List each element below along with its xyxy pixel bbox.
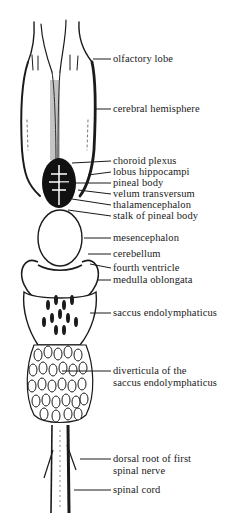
label-saccus-endolymphaticus: saccus endolymphaticus (113, 307, 217, 318)
label-lobus-hippocampi: lobus hippocampi (113, 166, 190, 177)
label-dorsal-root: dorsal root of first spinal nerve (113, 453, 191, 477)
label-diverticula-line2: saccus endolymphaticus (113, 377, 217, 389)
label-dorsal-root-line2: spinal nerve (113, 465, 191, 477)
label-fourth-ventricle: fourth ventricle (113, 262, 180, 273)
label-mesencephalon: mesencephalon (113, 232, 179, 243)
label-diverticula-line1: diverticula of the (113, 365, 217, 377)
label-spinal-cord: spinal cord (113, 484, 160, 495)
left-olfactory-tip-outer (28, 22, 34, 62)
label-diverticula: diverticula of the saccus endolymphaticu… (113, 365, 217, 389)
label-choroid-plexus: choroid plexus (113, 155, 177, 166)
label-dorsal-root-line1: dorsal root of first (113, 453, 191, 465)
label-cerebellum: cerebellum (113, 248, 161, 259)
label-olfactory-lobe: olfactory lobe (113, 53, 173, 64)
label-cerebral-hemisphere: cerebral hemisphere (113, 103, 200, 114)
label-thalamencephalon: thalamencephalon (113, 199, 191, 210)
brain-diagram: olfactory lobe cerebral hemisphere choro… (0, 0, 249, 513)
label-pineal-body: pineal body (113, 177, 163, 188)
label-stalk-of-pineal-body: stalk of pineal body (113, 210, 198, 221)
label-medulla-oblongata: medulla oblongata (113, 274, 193, 285)
label-velum-transversum: velum transversum (113, 188, 195, 199)
